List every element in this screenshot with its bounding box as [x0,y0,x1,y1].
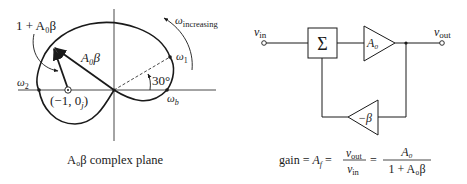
complex-plane: 1 + A₀β A₀β ωincreasing ω1 ω2 ωb 30° (−1… [16,9,218,167]
vin-label: vin [254,25,267,40]
label-a0beta: A₀β [80,50,100,65]
svg-text:1 + A₀β: 1 + A₀β [388,162,425,176]
feedback-gain-label: −β [358,111,372,125]
label-omegab: ωb [167,92,179,107]
label-omega1: ω1 [176,50,188,65]
vout-terminal [440,41,445,46]
forward-gain-label: A₀ [366,36,379,50]
vin-terminal [262,41,267,46]
feedback-block-diagram: Σ A₀ −β vin vout gain = Af = vout vin = … [254,25,451,177]
caption-complex-plane: A₀β complex plane [67,153,164,167]
point-origin [112,88,115,91]
output-node [404,41,407,44]
point-omega1 [168,55,172,59]
angle-arc-arrow [148,74,150,90]
svg-text:vin: vin [347,163,359,177]
svg-text:gain = Af =: gain = Af = [279,153,332,169]
label-omega2: ω2 [17,76,29,91]
label-angle: 30° [152,73,170,88]
svg-text:A₀: A₀ [400,145,413,159]
label-omega-increasing: ωincreasing [175,14,218,29]
svg-text:vout: vout [346,147,363,161]
label-critical-point: (−1, 0j) [50,93,88,110]
diagram-canvas: 1 + A₀β A₀β ωincreasing ω1 ω2 ωb 30° (−1… [0,0,467,184]
sum-symbol: Σ [317,34,327,54]
label-one-plus-a0beta: 1 + A₀β [16,18,57,33]
gain-formula: gain = Af = vout vin = A₀ 1 + A₀β [279,145,431,177]
vout-label: vout [434,25,451,40]
point-omega2 [37,88,41,92]
svg-text:=: = [370,153,377,167]
